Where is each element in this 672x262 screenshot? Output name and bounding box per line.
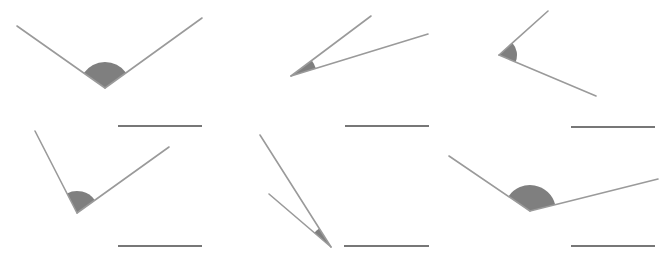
angle-ray [35, 131, 77, 213]
angle-ray [449, 156, 530, 211]
angle-ray [105, 18, 202, 88]
angle-figure-3 [499, 11, 655, 127]
angle-ray [291, 34, 428, 76]
angle-ray [77, 147, 169, 213]
angle-ray [499, 11, 548, 55]
angle-ray [260, 135, 331, 247]
angle-figure-4 [35, 131, 202, 246]
angle-arc-marker [84, 62, 126, 88]
angle-figure-6 [449, 156, 658, 246]
angle-figure-2 [291, 16, 429, 126]
angle-ray [269, 194, 331, 247]
angle-ray [291, 16, 371, 76]
angle-worksheet [0, 0, 672, 262]
angle-figure-5 [260, 135, 429, 247]
angle-ray [17, 26, 105, 88]
angle-figure-1 [17, 18, 202, 126]
angle-ray [499, 55, 596, 96]
